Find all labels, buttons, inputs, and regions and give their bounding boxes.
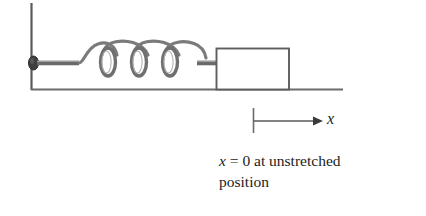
- x-axis-arrow-head: [313, 117, 323, 126]
- x-axis-arrow: [254, 117, 324, 126]
- coil-spring: [79, 41, 206, 76]
- block: [217, 49, 290, 90]
- spring-wall-anchor-highlight: [30, 58, 34, 64]
- x-axis-label: x: [327, 110, 334, 128]
- spring-coil-2-highlight: [133, 51, 142, 73]
- caption-line-1-rest: = 0 at unstretched: [226, 152, 341, 169]
- spring-coil-3-highlight: [164, 51, 173, 73]
- caption-variable-x: x: [219, 152, 226, 169]
- caption-line-1: x = 0 at unstretched: [219, 150, 419, 171]
- caption-line-2: position: [219, 171, 419, 192]
- spring-coil-1-highlight: [102, 51, 111, 73]
- figure-caption: x = 0 at unstretched position: [219, 150, 419, 192]
- physics-figure: x x = 0 at unstretched position: [0, 0, 426, 216]
